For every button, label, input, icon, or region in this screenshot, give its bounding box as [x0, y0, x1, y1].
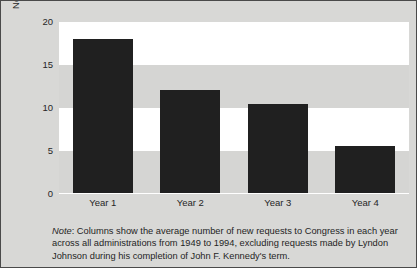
- y-tick-label: 20: [25, 17, 53, 27]
- bar: [248, 104, 308, 194]
- bar: [73, 39, 133, 194]
- note-text: Columns show the average number of new r…: [52, 226, 398, 261]
- plot-area: [59, 22, 409, 194]
- x-axis-baseline: [59, 193, 409, 194]
- y-tick-label: 5: [25, 146, 53, 156]
- y-tick-label: 10: [25, 103, 53, 113]
- y-tick-label: 0: [25, 189, 53, 199]
- chart-note: Note: Columns show the average number of…: [52, 225, 408, 262]
- x-category-label: Year 1: [59, 198, 147, 208]
- figure-container: New Requests to Congress 20 15 10 5 0 Ye…: [0, 0, 417, 268]
- x-category-label: Year 4: [322, 198, 410, 208]
- x-category-label: Year 2: [147, 198, 235, 208]
- bar: [160, 90, 220, 194]
- y-axis-tick-labels: 20 15 10 5 0: [21, 22, 53, 194]
- y-tick-label: 15: [25, 60, 53, 70]
- note-label: Note: [52, 226, 72, 236]
- bar: [335, 146, 395, 194]
- x-category-label: Year 3: [234, 198, 322, 208]
